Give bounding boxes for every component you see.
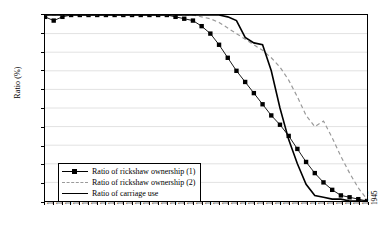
x-axis-tick-mark	[324, 202, 325, 205]
x-axis-tick-mark	[184, 202, 185, 205]
x-axis-tick-mark	[167, 202, 168, 205]
x-axis-tick-mark	[237, 202, 238, 205]
x-axis-tick-mark	[97, 202, 98, 205]
x-axis-tick-mark	[307, 202, 308, 205]
x-axis-tick-mark	[280, 202, 281, 205]
legend-key-line-marker-icon	[62, 167, 88, 177]
x-axis-tick-mark	[105, 202, 106, 205]
x-axis-tick-mark	[219, 202, 220, 205]
x-axis-tick-mark	[263, 202, 264, 205]
series-marker	[52, 18, 56, 22]
x-axis-tick-mark	[315, 202, 316, 205]
x-axis-tick-mark	[368, 202, 369, 205]
x-axis-tick-mark	[272, 202, 273, 205]
x-axis-tick-mark	[53, 202, 54, 205]
x-axis-tick-label: 1945	[371, 191, 378, 205]
x-axis-tick-mark	[333, 202, 334, 205]
legend-key-dashed-line-icon	[62, 178, 88, 188]
series-marker	[313, 171, 317, 175]
series-marker	[304, 160, 308, 164]
x-axis-tick-mark	[350, 202, 351, 205]
x-axis-tick-mark	[298, 202, 299, 205]
series-marker	[226, 56, 230, 60]
series-marker	[191, 18, 195, 22]
x-axis-tick-mark	[123, 202, 124, 205]
series-marker	[182, 17, 186, 21]
x-axis-tick-mark	[289, 202, 290, 205]
series-marker	[208, 31, 212, 35]
legend-item-rickshaw-ownership-2: Ratio of rickshaw ownership (2)	[62, 177, 196, 188]
series-marker	[339, 193, 343, 197]
series-marker	[269, 113, 273, 117]
series-marker	[199, 24, 203, 28]
x-axis-tick-mark	[228, 202, 229, 205]
chart-container: Ratio (%) 0102030405060708090100 1871187…	[0, 0, 385, 244]
series-marker	[260, 102, 264, 106]
series-marker	[330, 188, 334, 192]
x-axis-tick-mark	[158, 202, 159, 205]
series-marker	[347, 195, 351, 199]
x-axis-tick-mark	[44, 202, 45, 205]
legend-item-carriage-use: Ratio of carriage use	[62, 188, 196, 199]
x-axis-tick-mark	[202, 202, 203, 205]
legend-label: Ratio of carriage use	[92, 189, 158, 198]
x-axis-tick-mark	[254, 202, 255, 205]
y-axis-title: Ratio (%)	[13, 38, 22, 128]
x-axis-tick-mark	[359, 202, 360, 205]
x-axis-tick-mark	[149, 202, 150, 205]
x-axis-tick-mark	[210, 202, 211, 205]
series-marker	[243, 80, 247, 84]
series-marker	[278, 123, 282, 127]
x-axis-tick-mark	[70, 202, 71, 205]
x-axis-tick-mark	[245, 202, 246, 205]
x-axis-tick-mark	[175, 202, 176, 205]
series-marker	[217, 43, 221, 47]
chart-legend: Ratio of rickshaw ownership (1) Ratio of…	[58, 163, 201, 202]
legend-label: Ratio of rickshaw ownership (2)	[92, 178, 196, 187]
x-axis-tick-mark	[132, 202, 133, 205]
x-axis-tick-mark	[114, 202, 115, 205]
x-axis-tick-mark	[88, 202, 89, 205]
legend-item-rickshaw-ownership-1: Ratio of rickshaw ownership (1)	[62, 166, 196, 177]
legend-label: Ratio of rickshaw ownership (1)	[92, 167, 196, 176]
legend-key-solid-line-icon	[62, 189, 88, 199]
x-axis-tick-mark	[342, 202, 343, 205]
series-marker	[321, 180, 325, 184]
x-axis-tick-mark	[79, 202, 80, 205]
x-axis-tick-mark	[62, 202, 63, 205]
x-axis-tick-mark	[193, 202, 194, 205]
x-axis-tick-mark	[140, 202, 141, 205]
series-marker	[234, 69, 238, 73]
series-marker	[252, 91, 256, 95]
series-marker	[295, 147, 299, 151]
